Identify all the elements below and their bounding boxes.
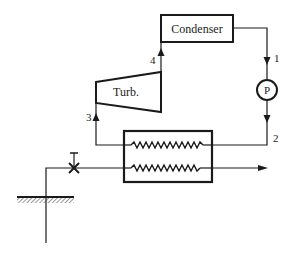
pump-label: P [264, 84, 270, 96]
valve-icon [69, 153, 79, 173]
turbine-label: Turb. [113, 85, 139, 99]
state-point-4-label: 4 [150, 54, 156, 66]
flow-arrow-icon [264, 115, 271, 123]
line-turbine-to-condenser: 4 [150, 42, 165, 72]
cycle-diagram: Condenser 1 P 2 3 Turb. [0, 0, 292, 259]
flow-arrow-icon [158, 48, 165, 56]
outflow-arrow-icon [258, 165, 268, 171]
line-condenser-to-pump: 1 [233, 28, 280, 80]
line-heat-exchanger-to-turbine: 3 [86, 103, 124, 145]
pump: P [257, 80, 277, 100]
state-point-3-label: 3 [86, 111, 92, 123]
ground-surface-icon [17, 197, 74, 203]
condenser: Condenser [161, 15, 233, 42]
heat-exchanger [124, 131, 212, 182]
state-point-2-label: 2 [273, 132, 279, 144]
flow-arrow-icon [264, 57, 271, 65]
line-pump-to-heat-exchanger: 2 [212, 100, 279, 145]
turbine: Turb. [96, 72, 161, 112]
state-point-1-label: 1 [274, 52, 280, 64]
condenser-label: Condenser [171, 22, 222, 36]
flow-arrow-icon [93, 113, 100, 121]
